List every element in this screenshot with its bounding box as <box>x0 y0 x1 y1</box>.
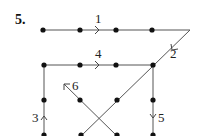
dot <box>113 27 118 32</box>
dot <box>41 97 46 102</box>
dot <box>114 97 119 102</box>
dot <box>77 62 82 67</box>
stroke-6-label: 6 <box>72 78 79 93</box>
dot <box>150 97 155 102</box>
stroke-4-label: 4 <box>95 46 102 61</box>
dot-path-diagram: 5. 1 2 3 4 5 6 <box>0 0 199 136</box>
stroke-1-label: 1 <box>95 11 102 26</box>
dot <box>41 62 46 67</box>
dot <box>40 27 45 32</box>
dot <box>150 62 155 67</box>
dot <box>149 27 154 32</box>
dot <box>150 132 155 136</box>
dot <box>113 62 118 67</box>
stroke-2-label: 2 <box>170 46 177 61</box>
stroke-3-label: 3 <box>32 110 39 125</box>
dot <box>78 132 83 136</box>
problem-number: 5. <box>15 12 26 27</box>
stroke-5-label: 5 <box>158 110 165 125</box>
dot <box>114 132 119 136</box>
dot <box>41 132 46 136</box>
dot <box>77 97 82 102</box>
dot <box>77 27 82 32</box>
